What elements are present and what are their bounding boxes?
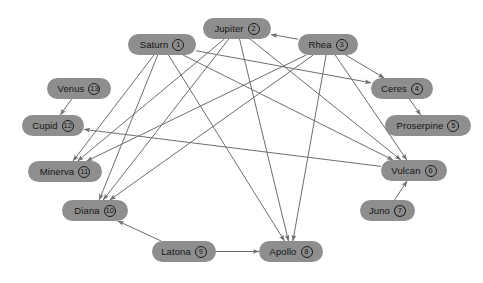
node-label: Apollo: [269, 246, 296, 257]
node-label: Minerva: [40, 166, 75, 177]
node-label: Jupiter: [214, 23, 243, 34]
node-number-badge: 4: [411, 83, 423, 95]
graph-node-jupiter[interactable]: Jupiter2: [203, 18, 271, 39]
node-number-badge: 8: [301, 246, 313, 258]
graph-node-proserpine[interactable]: Proserpine5: [385, 115, 471, 136]
graph-edge-rhea-to-vulcan: [335, 55, 407, 160]
node-number-badge: 5: [447, 120, 459, 132]
node-label: Venus: [58, 83, 85, 94]
node-number-badge: 11: [78, 166, 90, 178]
node-number-badge: 13: [88, 83, 100, 95]
edge-layer: [0, 0, 483, 283]
graph-edge-jupiter-to-minerva: [78, 39, 225, 161]
graph-edge-saturn-to-diana: [99, 55, 158, 200]
node-number-badge: 10: [104, 205, 116, 217]
node-number-badge: 1: [172, 39, 184, 51]
node-number-badge: 6: [425, 165, 437, 177]
graph-edge-vulcan-to-cupid: [84, 129, 381, 166]
node-label: Latona: [161, 246, 191, 257]
graph-edge-rhea-to-diana: [110, 55, 314, 200]
graph-edge-jupiter-to-apollo: [240, 39, 289, 241]
node-label: Diana: [74, 205, 99, 216]
graph-edge-venus-to-cupid: [60, 99, 71, 115]
graph-edge-rhea-to-jupiter: [271, 34, 298, 39]
node-number-badge: 7: [394, 205, 406, 217]
graph-edge-saturn-to-apollo: [169, 55, 285, 241]
graph-node-cupid[interactable]: Cupid12: [22, 115, 84, 136]
graph-canvas: Saturn1Jupiter2Rhea3Ceres4Proserpine5Vul…: [0, 0, 483, 283]
graph-node-juno[interactable]: Juno7: [360, 200, 415, 221]
graph-edge-saturn-to-ceres: [196, 51, 371, 83]
graph-edge-latona-to-diana: [118, 221, 161, 241]
node-label: Saturn: [140, 39, 169, 50]
graph-edge-rhea-to-ceres: [346, 55, 385, 78]
node-number-badge: 12: [62, 120, 74, 132]
graph-node-apollo[interactable]: Apollo8: [259, 241, 323, 262]
graph-node-diana[interactable]: Diana10: [62, 200, 128, 221]
graph-node-rhea[interactable]: Rhea3: [298, 34, 358, 55]
node-label: Rhea: [308, 39, 331, 50]
graph-edge-juno-to-vulcan: [394, 181, 407, 200]
graph-edge-rhea-to-minerva: [87, 55, 307, 161]
graph-node-ceres[interactable]: Ceres4: [371, 78, 433, 99]
node-label: Ceres: [381, 83, 407, 94]
graph-edge-ceres-to-proserpine: [409, 99, 420, 115]
graph-edge-rhea-to-apollo: [293, 55, 326, 241]
graph-node-vulcan[interactable]: Vulcan6: [381, 160, 447, 181]
node-number-badge: 2: [248, 23, 260, 35]
graph-node-latona[interactable]: Latona9: [152, 241, 216, 262]
graph-node-minerva[interactable]: Minerva11: [28, 161, 102, 182]
node-label: Juno: [369, 205, 390, 216]
node-number-badge: 3: [336, 39, 348, 51]
graph-edge-saturn-to-vulcan: [183, 55, 393, 160]
graph-edge-jupiter-to-diana: [103, 39, 229, 200]
node-label: Vulcan: [391, 165, 420, 176]
graph-node-saturn[interactable]: Saturn1: [128, 34, 196, 55]
graph-node-venus[interactable]: Venus13: [47, 78, 111, 99]
node-label: Proserpine: [397, 120, 444, 131]
node-label: Cupid: [32, 120, 57, 131]
node-number-badge: 9: [195, 246, 207, 258]
